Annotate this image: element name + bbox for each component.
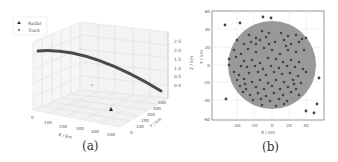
y-tick: 100 bbox=[136, 124, 144, 129]
legend-track-label: Track bbox=[27, 28, 40, 33]
x-tick: 400 bbox=[91, 129, 99, 134]
x-tick: -20 bbox=[251, 123, 258, 128]
chart-b-scatter-plot: Y / km bbox=[170, 0, 338, 162]
b-y-axis-label: Y / km bbox=[199, 50, 204, 65]
y-axis-label: Y / km bbox=[148, 116, 163, 129]
y-tick: 500 bbox=[158, 100, 166, 105]
x-tick: 200 bbox=[59, 124, 67, 129]
x-tick: 500 bbox=[107, 132, 115, 137]
y-tick: 40 bbox=[205, 27, 211, 32]
b-x-axis-label: X / km bbox=[261, 130, 275, 135]
legend-circle-icon bbox=[18, 29, 20, 31]
x-tick: 300 bbox=[76, 126, 84, 131]
track-projection-point bbox=[91, 84, 93, 86]
x-tick: 0 bbox=[271, 123, 274, 128]
y-tick: 200 bbox=[141, 118, 149, 123]
x-tick: 40 bbox=[303, 123, 309, 128]
y-tick: -60 bbox=[203, 117, 210, 122]
legend-radar-label: Radar bbox=[28, 21, 42, 26]
chart-a-3d-plot: Radar Track 0 100 200 300 400 500 X / km… bbox=[0, 0, 170, 162]
b-y-ticks: 60 40 20 0 -20 -40 -60 bbox=[203, 9, 210, 122]
chart-a-panel: Radar Track 0 100 200 300 400 500 X / km… bbox=[0, 0, 170, 162]
y-tick: 400 bbox=[153, 106, 161, 111]
y-tick: 20 bbox=[205, 45, 211, 50]
b-x-ticks: -40 -20 0 20 40 bbox=[234, 123, 309, 128]
caption-b: (b) bbox=[262, 140, 279, 154]
x-tick: 0 bbox=[31, 115, 34, 120]
x-tick: -40 bbox=[234, 123, 241, 128]
y-tick: 0 bbox=[207, 63, 210, 68]
chart-a-legend: Radar Track bbox=[13, 17, 47, 35]
x-axis-label: X / km bbox=[58, 132, 73, 140]
y-tick: 60 bbox=[205, 9, 211, 14]
y-tick: 0 bbox=[130, 130, 133, 135]
x-tick: 20 bbox=[286, 123, 292, 128]
y-tick: 300 bbox=[147, 112, 155, 117]
x-tick: 100 bbox=[44, 120, 52, 125]
y-tick: -20 bbox=[203, 80, 210, 85]
caption-a: (a) bbox=[82, 139, 99, 153]
chart-b-panel: Y / km bbox=[170, 0, 338, 162]
y-tick: -40 bbox=[203, 98, 210, 103]
